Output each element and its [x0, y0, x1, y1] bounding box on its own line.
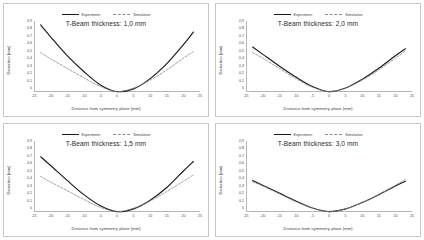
legend-label: Experiment	[82, 133, 101, 137]
curve-experiment	[41, 25, 194, 92]
legend-line-icon	[113, 14, 130, 15]
legend-line-icon	[62, 14, 79, 15]
legend-entry-experiment: Experiment	[62, 133, 101, 137]
curve-canvas	[34, 21, 200, 92]
legend-line-icon	[113, 134, 130, 135]
x-tick-label: 20	[393, 215, 397, 219]
y-tick-label: 0,3	[27, 185, 32, 189]
chart-panel-1: ExperimentSimulationT-Beam thickness: 1,…	[3, 3, 209, 117]
y-axis-ticks: 0,90,80,70,60,50,40,30,20,10	[228, 141, 244, 212]
y-tick-label: 0,9	[27, 140, 32, 144]
y-tick-label: 0,8	[239, 147, 244, 151]
y-axis-ticks: 0,90,80,70,60,50,40,30,20,10	[16, 141, 32, 212]
x-tick-label: 25	[410, 95, 414, 99]
y-tick-label: 0,7	[239, 155, 244, 159]
x-tick-label: -25	[243, 215, 248, 219]
legend-entry-simulation: Simulation	[113, 133, 150, 137]
legend-label: Experiment	[294, 133, 313, 137]
y-tick-label: 0,1	[27, 80, 32, 84]
x-tick-label: 25	[410, 215, 414, 219]
x-tick-label: 0	[116, 95, 118, 99]
y-tick-label: 0,7	[27, 155, 32, 159]
y-tick-label: 0,4	[239, 57, 244, 61]
x-axis-ticks: -25-20-15-10-50510152025	[34, 215, 200, 221]
x-tick-label: -20	[48, 95, 53, 99]
y-tick-label: 0,4	[239, 177, 244, 181]
x-tick-label: 5	[345, 95, 347, 99]
chart-legend: ExperimentSimulation	[4, 129, 208, 140]
x-tick-label: 15	[377, 95, 381, 99]
x-tick-label: -15	[277, 215, 282, 219]
x-tick-label: 0	[328, 95, 330, 99]
x-tick-label: 15	[165, 95, 169, 99]
x-tick-label: 20	[393, 95, 397, 99]
y-tick-label: 0	[242, 207, 244, 211]
legend-label: Simulation	[345, 13, 362, 17]
curve-canvas	[34, 141, 200, 212]
legend-line-icon	[274, 14, 291, 15]
curve-experiment	[253, 180, 406, 211]
x-tick-label: -20	[260, 95, 265, 99]
curve-simulation	[253, 51, 406, 92]
x-axis-title: Distance from symmetry plane [mm]	[216, 106, 420, 111]
x-tick-label: -20	[48, 215, 53, 219]
y-axis-ticks: 0,90,80,70,60,50,40,30,20,10	[16, 21, 32, 92]
x-tick-label: 15	[377, 215, 381, 219]
curve-simulation	[41, 52, 194, 92]
y-tick-label: 0,4	[27, 57, 32, 61]
x-tick-label: -5	[311, 95, 314, 99]
chart-panel-4: ExperimentSimulationT-Beam thickness: 3,…	[215, 123, 421, 237]
y-tick-label: 0,1	[239, 80, 244, 84]
x-tick-label: -10	[293, 215, 298, 219]
legend-entry-simulation: Simulation	[325, 133, 362, 137]
y-tick-label: 0,7	[239, 35, 244, 39]
y-tick-label: 0,8	[239, 27, 244, 31]
x-axis-title: Distance from symmetry plane [mm]	[4, 106, 208, 111]
x-tick-label: 25	[198, 215, 202, 219]
x-tick-label: 10	[148, 95, 152, 99]
y-tick-label: 0,4	[27, 177, 32, 181]
chart-legend: ExperimentSimulation	[216, 9, 420, 20]
y-tick-label: 0,5	[239, 170, 244, 174]
legend-label: Simulation	[133, 133, 150, 137]
x-tick-label: 0	[116, 215, 118, 219]
y-axis-title: Distortion [mm]	[218, 165, 223, 194]
legend-label: Simulation	[133, 13, 150, 17]
x-axis-title: Distance from symmetry plane [mm]	[4, 226, 208, 231]
x-tick-label: 20	[181, 215, 185, 219]
x-axis-ticks: -25-20-15-10-50510152025	[246, 95, 412, 101]
x-tick-label: -10	[293, 95, 298, 99]
y-tick-label: 0	[30, 87, 32, 91]
curve-canvas	[246, 21, 412, 92]
legend-label: Experiment	[294, 13, 313, 17]
x-tick-label: 20	[181, 95, 185, 99]
y-tick-label: 0,5	[27, 170, 32, 174]
x-tick-label: -5	[99, 215, 102, 219]
x-tick-label: 10	[360, 95, 364, 99]
y-tick-label: 0,2	[239, 192, 244, 196]
curve-canvas	[246, 141, 412, 212]
y-tick-label: 0,7	[27, 35, 32, 39]
y-axis-title: Distortion [mm]	[218, 45, 223, 74]
y-axis-title: Distortion [mm]	[6, 165, 11, 194]
x-tick-label: 5	[133, 95, 135, 99]
legend-entry-experiment: Experiment	[62, 13, 101, 17]
legend-label: Experiment	[82, 13, 101, 17]
x-axis-ticks: -25-20-15-10-50510152025	[246, 215, 412, 221]
x-tick-label: -10	[81, 215, 86, 219]
y-tick-label: 0,9	[239, 140, 244, 144]
legend-label: Simulation	[345, 133, 362, 137]
legend-entry-experiment: Experiment	[274, 133, 313, 137]
plot-area	[246, 21, 412, 92]
x-tick-label: 25	[198, 95, 202, 99]
x-tick-label: 5	[345, 215, 347, 219]
y-tick-label: 0,6	[27, 162, 32, 166]
y-tick-label: 0,5	[27, 50, 32, 54]
x-tick-label: -5	[311, 215, 314, 219]
x-tick-label: -25	[243, 95, 248, 99]
chart-legend: ExperimentSimulation	[4, 9, 208, 20]
plot-area	[34, 21, 200, 92]
figure-grid: ExperimentSimulationT-Beam thickness: 1,…	[0, 0, 424, 240]
legend-line-icon	[62, 134, 79, 135]
x-tick-label: 10	[360, 215, 364, 219]
